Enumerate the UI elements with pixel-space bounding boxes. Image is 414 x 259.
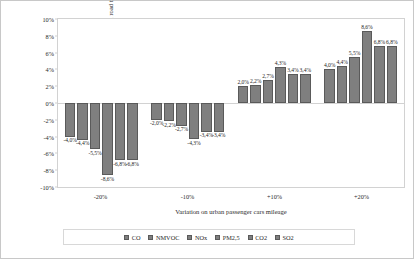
legend-label: CO2 <box>255 234 267 241</box>
bar-co2[interactable] <box>288 74 298 103</box>
bar-value-label: -2,7% <box>175 126 188 132</box>
legend-swatch-icon <box>187 235 192 240</box>
bar-value-label: 4,0% <box>324 62 335 68</box>
bar-value-label: 5,5% <box>349 50 360 56</box>
plot-area: 10%8%6%4%2%0%-2%-4%-6%-8%-10% -4,0%-4,4%… <box>58 19 404 187</box>
legend-item-pm25[interactable]: PM2,5 <box>215 234 239 241</box>
legend-swatch-icon <box>124 235 129 240</box>
bar-nmvoc[interactable] <box>164 103 174 121</box>
bar-co2[interactable] <box>115 103 125 160</box>
legend-item-so2[interactable]: SO2 <box>275 234 294 241</box>
bar-value-label: 8,6% <box>361 24 372 30</box>
legend-item-co[interactable]: CO <box>124 234 140 241</box>
bar-slot: 6,8% <box>387 19 397 187</box>
bar-value-label: -8,6% <box>101 176 114 182</box>
bar-slot: 3,4% <box>288 19 298 187</box>
bar-slot: 4,3% <box>275 19 285 187</box>
bar-so2[interactable] <box>214 103 224 132</box>
legend-item-nmvoc[interactable]: NMVOC <box>148 234 179 241</box>
bar-value-label: 6,8% <box>374 39 385 45</box>
bar-so2[interactable] <box>300 74 310 103</box>
bar-nmvoc[interactable] <box>77 103 87 140</box>
bar-co[interactable] <box>65 103 75 137</box>
legend-item-co2[interactable]: CO2 <box>248 234 267 241</box>
bar-value-label: -2,2% <box>162 122 175 128</box>
bar-pm25[interactable] <box>102 103 112 175</box>
legend-label: CO <box>132 234 141 241</box>
bar-nox[interactable] <box>263 80 273 103</box>
bar-value-label: -6,8% <box>126 161 139 167</box>
bar-value-label: 2,2% <box>250 78 261 84</box>
bar-co[interactable] <box>324 69 334 103</box>
bar-nox[interactable] <box>90 103 100 149</box>
x-axis-tick-label: -10% <box>144 193 231 200</box>
bar-co2[interactable] <box>201 103 211 132</box>
bar-slot: 8,6% <box>362 19 372 187</box>
legend-label: NMVOC <box>156 234 179 241</box>
bar-slot: -2,0% <box>151 19 161 187</box>
x-axis-tick-label: +20% <box>318 193 405 200</box>
bar-slot: 6,8% <box>374 19 384 187</box>
legend-item-nox[interactable]: NOx <box>187 234 207 241</box>
bar-group: -2,0%-2,2%-2,7%-4,3%-3,4%-3,4% <box>145 19 232 187</box>
bar-slot: -3,4% <box>201 19 211 187</box>
x-axis-ticks: -20%-10%+10%+20% <box>57 193 405 200</box>
bar-value-label: -5,5% <box>88 150 101 156</box>
bar-slot: -5,5% <box>90 19 100 187</box>
bar-groups: -4,0%-4,4%-5,5%-8,6%-6,8%-6,8%-2,0%-2,2%… <box>58 19 404 187</box>
bar-pm25[interactable] <box>189 103 199 139</box>
bar-group: -4,0%-4,4%-5,5%-8,6%-6,8%-6,8% <box>58 19 145 187</box>
bar-value-label: -6,8% <box>113 161 126 167</box>
bar-slot: 2,2% <box>250 19 260 187</box>
chart-figure: Emissions variation, total road transpor… <box>0 0 414 259</box>
bar-nox[interactable] <box>176 103 186 126</box>
bar-so2[interactable] <box>387 46 397 103</box>
bar-slot: -4,3% <box>189 19 199 187</box>
bar-slot: -3,4% <box>214 19 224 187</box>
bar-slot: -4,4% <box>77 19 87 187</box>
bar-co2[interactable] <box>374 46 384 103</box>
bar-slot: -2,2% <box>164 19 174 187</box>
bar-value-label: -4,4% <box>76 140 89 146</box>
x-axis-tick-label: +10% <box>231 193 318 200</box>
legend-label: SO2 <box>283 234 294 241</box>
bar-slot: -6,8% <box>127 19 137 187</box>
bar-slot: -8,6% <box>102 19 112 187</box>
bar-slot: 2,0% <box>238 19 248 187</box>
bar-nmvoc[interactable] <box>250 85 260 103</box>
bar-slot: -4,0% <box>65 19 75 187</box>
bar-value-label: 3,4% <box>300 67 311 73</box>
legend-label: PM2,5 <box>223 234 240 241</box>
bar-value-label: -3,4% <box>212 132 225 138</box>
bar-value-label: 4,4% <box>336 59 347 65</box>
bar-slot: 4,0% <box>324 19 334 187</box>
legend-swatch-icon <box>248 235 253 240</box>
legend-swatch-icon <box>148 235 153 240</box>
bar-slot: 2,7% <box>263 19 273 187</box>
x-axis-tick-label: -20% <box>57 193 144 200</box>
bar-value-label: 3,4% <box>287 67 298 73</box>
bar-nox[interactable] <box>349 57 359 103</box>
legend-label: NOx <box>195 234 207 241</box>
legend-swatch-icon <box>215 235 220 240</box>
bar-slot: 5,5% <box>349 19 359 187</box>
bar-co[interactable] <box>238 86 248 103</box>
bar-pm25[interactable] <box>275 67 285 103</box>
bar-co[interactable] <box>151 103 161 120</box>
bar-value-label: -3,4% <box>200 132 213 138</box>
bar-so2[interactable] <box>127 103 137 160</box>
x-axis-title: Variation on urban passenger cars mileag… <box>57 208 405 215</box>
bar-value-label: 4,3% <box>275 60 286 66</box>
bar-value-label: -4,3% <box>187 140 200 146</box>
bar-nmvoc[interactable] <box>337 66 347 103</box>
bar-value-label: 2,0% <box>237 79 248 85</box>
bar-pm25[interactable] <box>362 31 372 103</box>
bar-slot: -2,7% <box>176 19 186 187</box>
bar-slot: 3,4% <box>300 19 310 187</box>
bar-group: 2,0%2,2%2,7%4,3%3,4%3,4% <box>231 19 318 187</box>
bar-value-label: -2,0% <box>150 120 163 126</box>
bar-group: 4,0%4,4%5,5%8,6%6,8%6,8% <box>318 19 405 187</box>
bar-value-label: 2,7% <box>262 73 273 79</box>
bar-slot: 4,4% <box>337 19 347 187</box>
bar-slot: -6,8% <box>115 19 125 187</box>
